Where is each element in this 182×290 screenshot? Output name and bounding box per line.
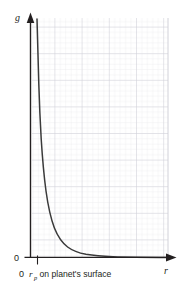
y-axis-origin-label: 0 [14, 253, 19, 263]
gravitational-field-strength-graph: g r 0 0 r p on planet's surface [0, 0, 182, 290]
caption-variable-r: r [29, 269, 33, 279]
caption-subscript-p: p [33, 274, 37, 281]
caption-description: on planet's surface [40, 269, 112, 279]
caption-origin-label: 0 [19, 269, 24, 279]
y-axis-label: g [15, 12, 20, 23]
x-axis-label: r [164, 265, 168, 276]
